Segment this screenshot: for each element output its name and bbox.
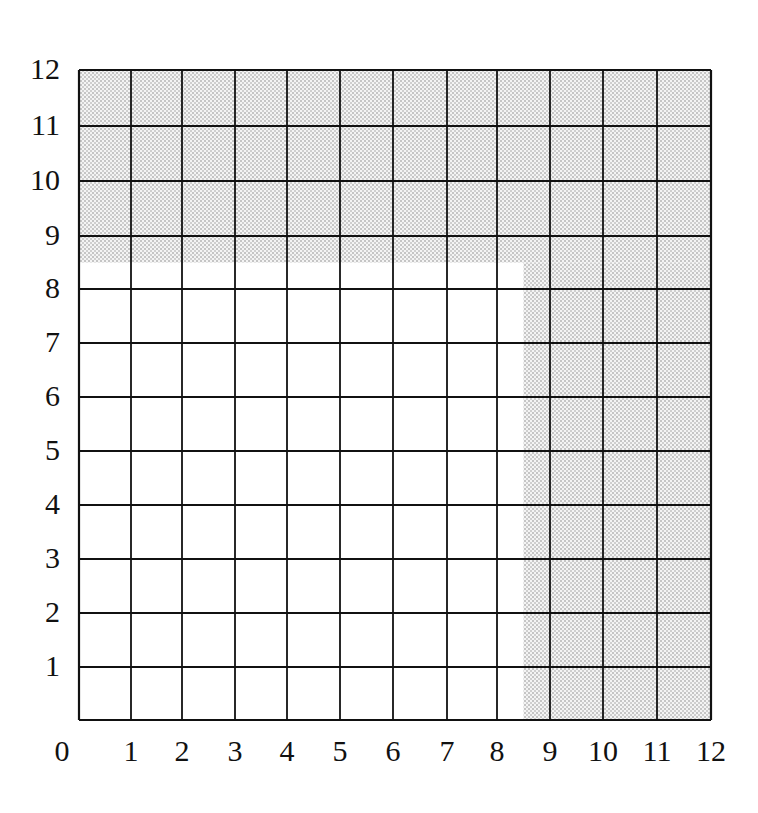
x-axis-label: 2 xyxy=(162,736,202,766)
grid-diagram xyxy=(0,0,758,813)
y-axis-label: 12 xyxy=(20,54,60,84)
x-axis-label: 8 xyxy=(477,736,517,766)
x-axis-label: 10 xyxy=(583,736,623,766)
y-axis-label: 8 xyxy=(20,273,60,303)
top-band-shade xyxy=(79,70,711,263)
y-axis-label: 5 xyxy=(20,435,60,465)
x-axis-label: 3 xyxy=(215,736,255,766)
x-axis-label: 7 xyxy=(427,736,467,766)
x-axis-label: 4 xyxy=(267,736,307,766)
y-axis-label: 6 xyxy=(20,381,60,411)
y-axis-label: 9 xyxy=(20,220,60,250)
y-axis-label: 10 xyxy=(20,165,60,195)
x-axis-label: 12 xyxy=(691,736,731,766)
x-axis-label: 1 xyxy=(111,736,151,766)
x-axis-label: 6 xyxy=(373,736,413,766)
y-axis-label: 2 xyxy=(20,597,60,627)
x-axis-label: 9 xyxy=(530,736,570,766)
x-axis-label: 5 xyxy=(320,736,360,766)
y-axis-label: 7 xyxy=(20,327,60,357)
y-axis-label: 1 xyxy=(20,651,60,681)
right-band-shade xyxy=(524,263,712,721)
y-axis-label: 4 xyxy=(20,489,60,519)
x-axis-label: 11 xyxy=(637,736,677,766)
x-axis-label: 0 xyxy=(42,736,82,766)
y-axis-label: 11 xyxy=(20,110,60,140)
y-axis-label: 3 xyxy=(20,543,60,573)
shaded-region xyxy=(79,70,711,720)
